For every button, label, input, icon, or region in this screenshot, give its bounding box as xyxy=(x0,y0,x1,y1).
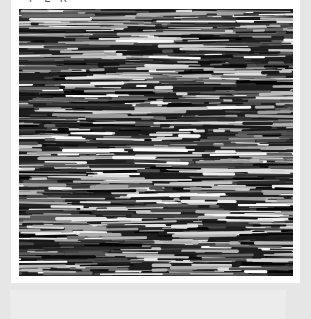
figure-caption: P E R xyxy=(29,0,70,4)
lower-band xyxy=(10,290,286,319)
figure-panel: P E R xyxy=(11,0,300,283)
texture-image xyxy=(19,9,293,276)
